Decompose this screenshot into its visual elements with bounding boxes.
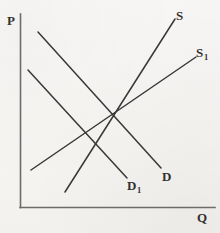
demand-shifted-curve-label-subscript: 1 [137, 185, 141, 195]
supply-shifted-curve [31, 57, 196, 170]
quantity-axis-label: Q [197, 211, 207, 224]
demand-curve-label: D [162, 170, 172, 183]
supply-shifted-curve-label-subscript: 1 [204, 52, 208, 62]
demand-shifted-curve-label: D1 [127, 179, 141, 192]
curves-group [28, 19, 196, 192]
supply-shifted-curve-label: S1 [196, 46, 208, 59]
supply-demand-plot [0, 0, 220, 233]
supply-curve-label: S [176, 9, 183, 22]
demand-shifted-curve-label-base: D [127, 178, 137, 193]
diagram-canvas: P Q S S1 D D1 [0, 0, 220, 233]
price-axis-label: P [7, 14, 15, 27]
supply-shifted-curve-label-base: S [196, 45, 203, 60]
